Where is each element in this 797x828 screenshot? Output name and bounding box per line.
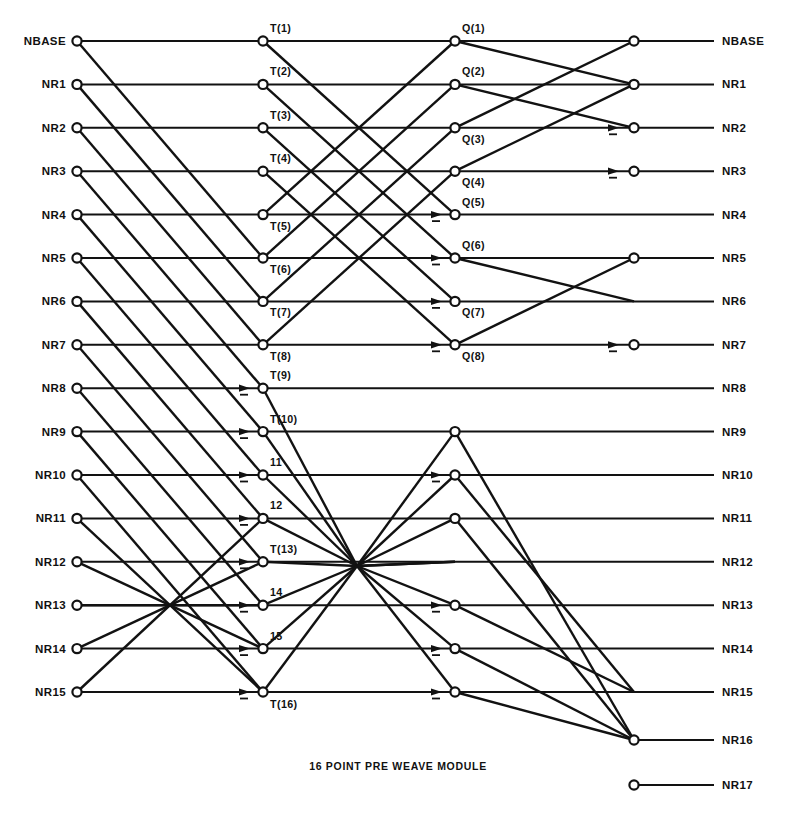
input-label-NR8: NR8	[42, 382, 66, 394]
input-label-NR12: NR12	[35, 556, 66, 568]
input-label-NR15: NR15	[35, 686, 66, 698]
figure-caption: 16 POINT PRE WEAVE MODULE	[309, 760, 487, 772]
t-node-label-T(2): T(2)	[270, 65, 291, 77]
diagram-text-layer: NBASENR1NR2NR3NR4NR5NR6NR7NR8NR9NR10NR11…	[0, 0, 797, 828]
q-node-label-Q(1): Q(1)	[462, 22, 485, 34]
input-label-NR5: NR5	[42, 252, 66, 264]
output-label-NR6: NR6	[722, 295, 746, 307]
output-label-NR9: NR9	[722, 426, 746, 438]
t-node-label-11: 11	[270, 456, 282, 468]
q-node-label-Q(4): Q(4)	[462, 176, 485, 188]
t-node-label-T(9): T(9)	[270, 369, 291, 381]
t-node-label-12: 12	[270, 499, 283, 511]
input-label-NR10: NR10	[35, 469, 66, 481]
input-label-NR7: NR7	[42, 339, 66, 351]
output-label-NR13: NR13	[722, 599, 753, 611]
input-label-NR14: NR14	[35, 643, 66, 655]
q-node-label-Q(7): Q(7)	[462, 306, 485, 318]
output-label-NR10: NR10	[722, 469, 753, 481]
input-label-NR1: NR1	[42, 78, 66, 90]
t-node-label-T(3): T(3)	[270, 109, 291, 121]
t-node-label-14: 14	[270, 586, 283, 598]
output-label-NR15: NR15	[722, 686, 753, 698]
t-node-label-T(5): T(5)	[270, 220, 291, 232]
t-node-label-T(4): T(4)	[270, 152, 291, 164]
t-node-label-15: 15	[270, 630, 283, 642]
q-node-label-Q(2): Q(2)	[462, 65, 485, 77]
output-label-NR14: NR14	[722, 643, 753, 655]
input-label-NR4: NR4	[42, 209, 66, 221]
input-label-NR11: NR11	[36, 512, 67, 524]
q-node-label-Q(5): Q(5)	[462, 196, 485, 208]
input-label-NR13: NR13	[35, 599, 66, 611]
output-label-NR2: NR2	[722, 122, 746, 134]
t-node-label-T(8): T(8)	[270, 350, 291, 362]
t-node-label-T(6): T(6)	[270, 263, 291, 275]
q-node-label-Q(3): Q(3)	[462, 133, 485, 145]
input-label-NR9: NR9	[42, 426, 66, 438]
output-label-NR8: NR8	[722, 382, 746, 394]
output-label-NR3: NR3	[722, 165, 746, 177]
output-label-NR16: NR16	[722, 734, 753, 746]
output-label-NR17: NR17	[722, 779, 753, 791]
input-label-NR6: NR6	[42, 295, 66, 307]
output-label-NR7: NR7	[722, 339, 746, 351]
q-node-label-Q(6): Q(6)	[462, 239, 485, 251]
output-label-NR5: NR5	[722, 252, 746, 264]
input-label-NBASE: NBASE	[24, 35, 66, 47]
output-label-NR12: NR12	[722, 556, 753, 568]
t-node-label-T(1): T(1)	[270, 22, 291, 34]
output-label-NR4: NR4	[722, 209, 746, 221]
t-node-label-T(10): T(10)	[270, 413, 298, 425]
output-label-NR1: NR1	[722, 78, 746, 90]
t-node-label-T(7): T(7)	[270, 306, 291, 318]
input-label-NR2: NR2	[42, 122, 66, 134]
figure-canvas: NBASENR1NR2NR3NR4NR5NR6NR7NR8NR9NR10NR11…	[0, 0, 797, 828]
t-node-label-T(16): T(16)	[270, 698, 298, 710]
t-node-label-T(13): T(13)	[270, 543, 298, 555]
output-label-NBASE: NBASE	[722, 35, 764, 47]
output-label-NR11: NR11	[722, 512, 753, 524]
input-label-NR3: NR3	[42, 165, 66, 177]
q-node-label-Q(8): Q(8)	[462, 350, 485, 362]
